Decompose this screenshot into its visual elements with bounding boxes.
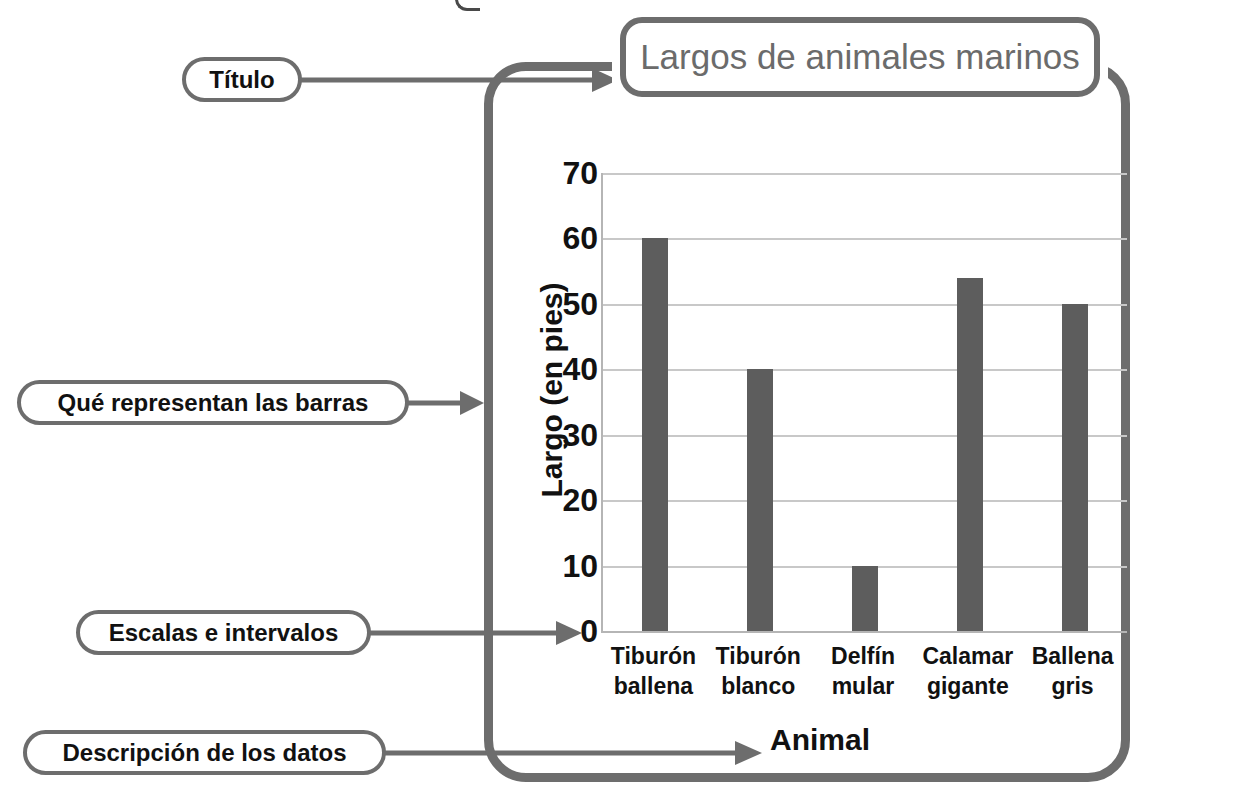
bar-slot bbox=[603, 173, 708, 631]
callout-descripcion-de-los-datos[interactable]: Descripción de los datos bbox=[23, 730, 386, 775]
y-tick-30: 30 bbox=[548, 416, 598, 453]
y-tick-50: 50 bbox=[548, 285, 598, 322]
callout-titulo-label: Título bbox=[209, 66, 274, 94]
x-tick-label-2: Delfínmular bbox=[811, 641, 916, 701]
x-axis-title: Animal bbox=[770, 723, 870, 757]
plot-area bbox=[601, 173, 1127, 633]
x-tick-label-0: Tiburónballena bbox=[601, 641, 706, 701]
bar-1[interactable] bbox=[747, 369, 773, 631]
callout-que-representan-las-barras[interactable]: Qué representan las barras bbox=[17, 380, 409, 425]
callout-titulo[interactable]: Título bbox=[182, 57, 302, 102]
bar-slot bbox=[708, 173, 813, 631]
bar-0[interactable] bbox=[642, 238, 668, 631]
worksheet-canvas: Título Qué representan las barras Escala… bbox=[0, 0, 1237, 810]
bar-series bbox=[603, 173, 1127, 631]
x-tick-label-3: Calamargigante bbox=[915, 641, 1020, 701]
chart-title-box: Largos de animales marinos bbox=[620, 17, 1100, 97]
bar-3[interactable] bbox=[957, 278, 983, 631]
callout-escalas-e-intervalos[interactable]: Escalas e intervalos bbox=[76, 610, 371, 655]
callout-escalas-label: Escalas e intervalos bbox=[109, 619, 338, 647]
y-tick-20: 20 bbox=[548, 482, 598, 519]
callout-datos-label: Descripción de los datos bbox=[62, 739, 346, 767]
x-tick-label-1: Tiburónblanco bbox=[706, 641, 811, 701]
bar-slot bbox=[917, 173, 1022, 631]
bar-slot bbox=[813, 173, 918, 631]
x-axis-tick-labels: TiburónballenaTiburónblancoDelfínmularCa… bbox=[601, 641, 1125, 711]
y-tick-0: 0 bbox=[548, 613, 598, 650]
connector-arrow-barras bbox=[408, 383, 486, 423]
bar-2[interactable] bbox=[852, 566, 878, 631]
y-tick-70: 70 bbox=[548, 155, 598, 192]
y-axis-tick-labels: 010203040506070 bbox=[548, 0, 598, 810]
bar-4[interactable] bbox=[1062, 304, 1088, 631]
clipped-text-artifact bbox=[455, 0, 480, 11]
x-tick-label-4: Ballenagris bbox=[1020, 641, 1125, 701]
y-tick-40: 40 bbox=[548, 351, 598, 388]
y-tick-60: 60 bbox=[548, 220, 598, 257]
bar-slot bbox=[1022, 173, 1127, 631]
y-tick-10: 10 bbox=[548, 547, 598, 584]
chart-title: Largos de animales marinos bbox=[640, 37, 1080, 77]
callout-barras-label: Qué representan las barras bbox=[58, 389, 369, 417]
